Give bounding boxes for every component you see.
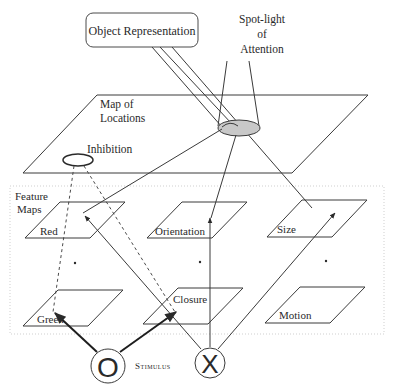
feature-maps-label-1: Feature xyxy=(15,190,48,202)
stimulus-label: Stimulus xyxy=(135,361,171,371)
spotlight-label: Spot-light of Attention xyxy=(239,13,286,55)
stimulus-x-connections xyxy=(85,213,335,349)
stimulus-o: O xyxy=(91,349,125,383)
svg-text:Motion: Motion xyxy=(279,309,312,321)
attention-diagram: Object Representation Spot-light of Atte… xyxy=(0,0,393,390)
stimulus-x: X xyxy=(195,348,225,379)
object-representation-box: Object Representation xyxy=(86,13,198,47)
stimulus-o-glyph: O xyxy=(97,352,119,383)
feature-map-closure: Closure xyxy=(143,288,243,324)
stimulus-o-connections xyxy=(55,312,176,352)
feature-map-size: Size xyxy=(267,200,367,237)
svg-text:of: of xyxy=(257,28,267,40)
svg-text:Orientation: Orientation xyxy=(155,225,206,237)
feature-map-ellipsis xyxy=(74,260,327,264)
svg-text:Spot-light: Spot-light xyxy=(239,13,286,26)
svg-text:Size: Size xyxy=(277,223,296,235)
svg-text:Attention: Attention xyxy=(240,43,284,55)
inhibition-ellipse xyxy=(63,154,93,166)
spotlight-ellipse xyxy=(218,120,260,136)
feature-maps-label-2: Maps xyxy=(17,203,41,215)
feature-maps-container xyxy=(10,186,384,334)
inhibition-label: Inhibition xyxy=(87,143,133,155)
feature-map-motion: Motion xyxy=(265,287,365,323)
stimulus-x-glyph: X xyxy=(201,349,218,379)
feature-map-green: Green xyxy=(23,290,123,326)
svg-text:Closure: Closure xyxy=(173,293,207,305)
feature-map-orientation: Orientation xyxy=(147,202,247,238)
map-of-locations-label-1: Map of xyxy=(100,98,134,111)
object-representation-label: Object Representation xyxy=(89,24,196,38)
svg-text:Red: Red xyxy=(40,225,58,237)
map-of-locations-label-2: Locations xyxy=(100,112,146,124)
